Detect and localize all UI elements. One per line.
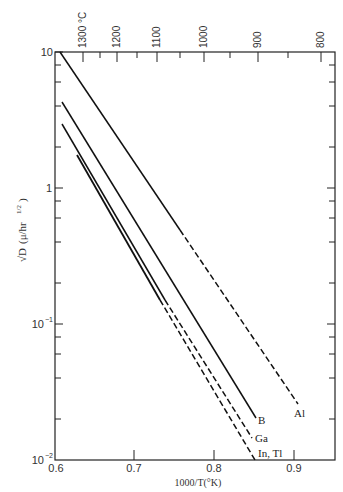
series-lines [60, 52, 298, 460]
series-b-solid [62, 102, 256, 418]
series-label-intl: In, Tl [258, 447, 282, 459]
x-tick-label: 0.6 [48, 462, 63, 474]
series-al-dashed [180, 230, 298, 404]
series-ga-solid [62, 124, 165, 300]
top-tick-label: 900 [252, 31, 263, 48]
series-label-al: Al [294, 407, 305, 419]
y-tick-label: 1 [46, 182, 52, 194]
series-al-solid [60, 52, 180, 230]
y-tick-exp: −2 [45, 452, 53, 459]
y-axis-label: √D (μ/hr 1/2 ) [15, 198, 29, 262]
top-tick-label: 1200 [111, 25, 122, 48]
series-ga-dashed [165, 300, 252, 438]
series-label-b: B [258, 414, 265, 426]
x-tick-label: 0.7 [126, 462, 141, 474]
y-ticks-left [55, 52, 63, 419]
top-tick-label: 1300 °C [77, 12, 88, 48]
chart: Al B Ga In, Tl 0.6 0.7 0.8 0.9 1000/T(°K… [0, 0, 343, 492]
top-ticks [83, 52, 321, 62]
y-tick-exp: −1 [45, 316, 53, 323]
svg-text:1/2: 1/2 [15, 205, 23, 214]
svg-text:): ) [16, 198, 29, 202]
top-tick-label: 1000 [198, 25, 209, 48]
y-tick-label: 10 [32, 318, 44, 330]
x-tick-label: 0.8 [206, 462, 221, 474]
y-ticks-right [327, 65, 335, 419]
svg-text:(μ/hr: (μ/hr [16, 222, 29, 244]
y-tick-label: 10 [41, 46, 53, 58]
top-tick-label: 1100 [151, 26, 162, 48]
y-tick-label: 10 [32, 454, 44, 466]
x-axis-label: 1000/T(°K) [175, 477, 222, 489]
series-intl-solid [77, 155, 160, 300]
top-tick-label: 800 [315, 31, 326, 48]
plot-frame [55, 52, 335, 460]
series-intl-dashed [160, 300, 255, 460]
series-label-ga: Ga [255, 432, 268, 444]
x-tick-label: 0.9 [286, 462, 301, 474]
svg-text:√D: √D [16, 248, 28, 262]
